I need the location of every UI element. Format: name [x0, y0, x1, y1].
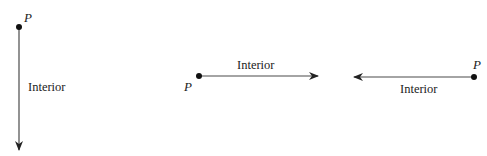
ray-left: P Interior: [354, 57, 481, 96]
endpoint-dot: [16, 24, 22, 30]
endpoint-label: P: [23, 10, 32, 25]
interior-label: Interior: [400, 82, 438, 96]
rays-diagram: P Interior P Interior P Interior: [0, 0, 487, 156]
ray-right: P Interior: [183, 58, 318, 94]
endpoint-dot: [471, 74, 477, 80]
endpoint-dot: [196, 73, 202, 79]
interior-label: Interior: [28, 80, 66, 94]
endpoint-label: P: [183, 79, 192, 94]
ray-vertical: P Interior: [16, 10, 66, 150]
endpoint-label: P: [472, 57, 481, 72]
interior-label: Interior: [237, 58, 275, 72]
